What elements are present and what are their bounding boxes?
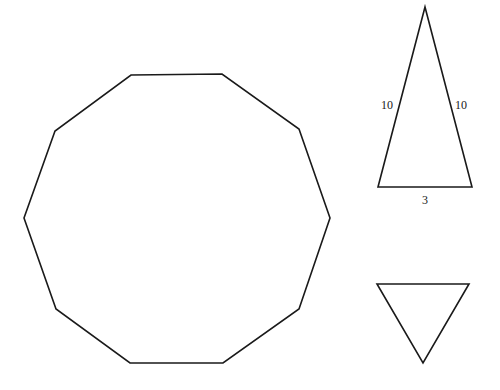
left-side-label: 10: [381, 98, 393, 112]
base-label: 3: [422, 193, 428, 207]
inverted-triangle: [377, 284, 469, 363]
right-side-label: 10: [455, 98, 467, 112]
decagon: [24, 74, 330, 363]
isosceles-triangle: [378, 7, 472, 187]
geometry-diagram: 10 10 3: [0, 0, 500, 390]
isosceles-triangle-group: 10 10 3: [378, 7, 472, 207]
